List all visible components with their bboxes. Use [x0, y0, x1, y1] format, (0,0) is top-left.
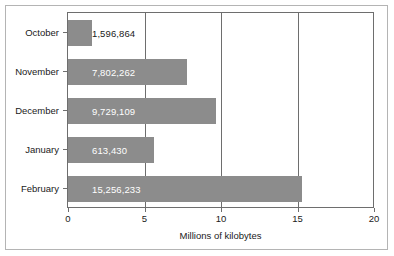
x-tick-label-0: 0 — [65, 213, 70, 224]
x-tick-20 — [374, 208, 375, 212]
x-tick-0 — [68, 208, 69, 212]
bar-value-label: 15,256,233 — [92, 183, 141, 194]
bar-value-label: 1,596,864 — [92, 27, 135, 38]
plot-area: 1,596,8647,802,2629,729,109613,43015,256… — [67, 12, 374, 208]
x-tick-5 — [145, 208, 146, 212]
x-tick-15 — [298, 208, 299, 212]
bar-value-label: 7,802,262 — [92, 66, 135, 77]
bar-december — [68, 98, 216, 124]
bar-value-label: 9,729,109 — [92, 105, 135, 116]
x-tick-label-15: 15 — [292, 213, 303, 224]
category-label-december: December — [0, 104, 59, 115]
bar-value-label: 613,430 — [92, 144, 127, 155]
bar-row: 613,430 — [68, 137, 374, 163]
x-tick-label-10: 10 — [216, 213, 227, 224]
x-tick-label-20: 20 — [369, 213, 380, 224]
category-label-october: October — [0, 26, 59, 37]
bar-chart-figure: OctoberNovemberDecemberJanuaryFebruary 1… — [0, 0, 394, 256]
bar-row: 7,802,262 — [68, 59, 374, 85]
x-tick-label-5: 5 — [142, 213, 147, 224]
category-label-november: November — [0, 65, 59, 76]
category-axis: OctoberNovemberDecemberJanuaryFebruary — [0, 12, 63, 208]
category-label-february: February — [0, 182, 59, 193]
x-tick-10 — [221, 208, 222, 212]
x-axis-title: Millions of kilobytes — [67, 230, 374, 241]
bar-row: 9,729,109 — [68, 98, 374, 124]
bar-row: 15,256,233 — [68, 176, 374, 202]
value-axis: 05101520 — [67, 208, 374, 228]
category-label-january: January — [0, 143, 59, 154]
bar-row: 1,596,864 — [68, 20, 374, 46]
bar-october — [68, 20, 92, 46]
